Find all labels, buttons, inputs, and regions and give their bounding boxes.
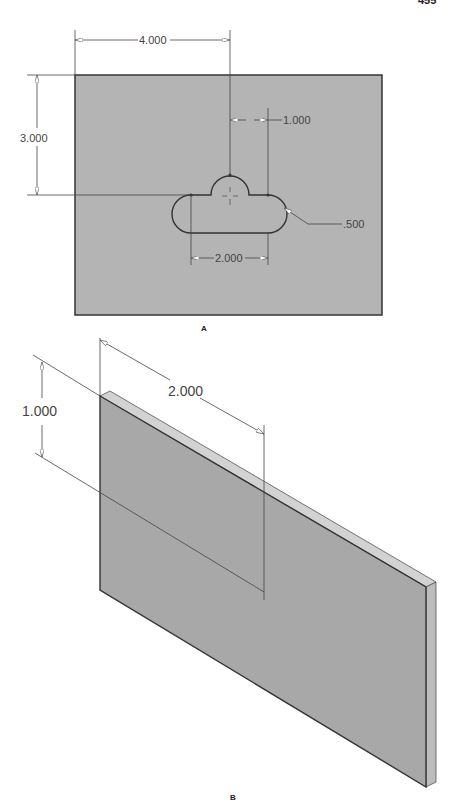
dim-width: 4.000 xyxy=(139,34,167,46)
figure-a: 4.000 3.000 1.000 2.000 xyxy=(20,30,382,333)
plate-side-edge xyxy=(426,582,436,787)
dim-slot-length: 2.000 xyxy=(215,252,243,264)
figure-a-label: A xyxy=(201,324,207,333)
dim-radius: .500 xyxy=(343,218,364,230)
dim-length: 2.000 xyxy=(168,383,203,399)
figure-b: 1.000 2.000 B xyxy=(22,338,436,802)
dim-depth: 1.000 xyxy=(22,403,57,419)
figure-b-label: B xyxy=(230,793,236,802)
dim-height: 3.000 xyxy=(20,132,48,144)
technical-drawing: 4.000 3.000 1.000 2.000 xyxy=(0,0,458,808)
dim-offset: 1.000 xyxy=(283,114,311,126)
